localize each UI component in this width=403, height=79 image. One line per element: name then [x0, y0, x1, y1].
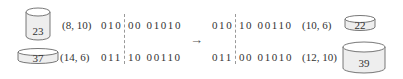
parent-1-bits-right: 00 01010	[128, 20, 182, 31]
child-2-bits-left: 011	[212, 52, 233, 63]
crossover-point-right	[235, 14, 236, 64]
svg-text:37: 37	[33, 52, 45, 64]
arrow-right-icon: →	[190, 33, 203, 46]
parent-1-coords: (8, 10)	[62, 20, 91, 31]
parent-2-bits-right: 10 00110	[128, 52, 182, 63]
svg-text:23: 23	[33, 25, 45, 37]
cylinder-child-2: 39	[341, 40, 387, 76]
child-1-coords: (10, 6)	[302, 20, 331, 31]
child-1-bits-left: 010	[212, 20, 233, 31]
parent-1-bits-left: 010	[101, 20, 122, 31]
svg-text:22: 22	[355, 19, 366, 31]
svg-text:39: 39	[359, 57, 371, 69]
child-2-bits-right: 00 01010	[239, 52, 293, 63]
cylinder-parent-1: 23	[24, 6, 52, 42]
crossover-point-left	[124, 14, 125, 64]
cylinder-child-1: 22	[343, 14, 377, 32]
child-2-coords: (12, 10)	[302, 52, 337, 63]
parent-2-bits-left: 011	[101, 52, 122, 63]
parent-2-coords: (14, 6)	[60, 52, 89, 63]
child-1-bits-right: 10 00110	[239, 20, 293, 31]
cylinder-parent-2: 37	[16, 47, 60, 65]
